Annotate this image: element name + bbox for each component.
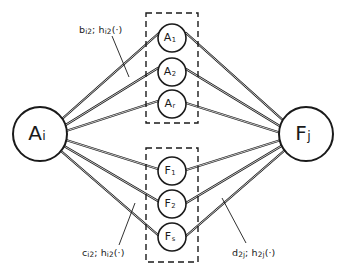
c-annotation-tail: (·) [114, 247, 125, 258]
b-annotation-mid: ; h [92, 24, 105, 35]
c-annotation-sub2: i2 [107, 250, 114, 259]
d-annotation-sub2: 2j [258, 250, 265, 259]
d-annotation-tail: (·) [265, 247, 276, 258]
d-annotation-leader [222, 198, 246, 243]
b-annotation: bi2; hi2(·) [79, 24, 122, 36]
c-annotation-mid: ; h [94, 247, 107, 258]
c-annotation: ci2; hi2(·) [82, 247, 125, 259]
b-annotation-tail: (·) [112, 24, 123, 35]
b-annotation-leader [112, 36, 129, 77]
nodes-layer: AiFjA1A2ArF1F2Fs [13, 24, 333, 251]
d-annotation-mid: ; h [245, 247, 258, 258]
d-annotation: d2j; h2j(·) [232, 247, 275, 259]
diagram-canvas: AiFjA1A2ArF1F2Fs bi2; hi2(·)ci2; hi2(·)d… [0, 0, 341, 278]
diagram-svg: AiFjA1A2ArF1F2Fs [0, 0, 341, 278]
b-annotation-sub2: i2 [105, 27, 112, 36]
